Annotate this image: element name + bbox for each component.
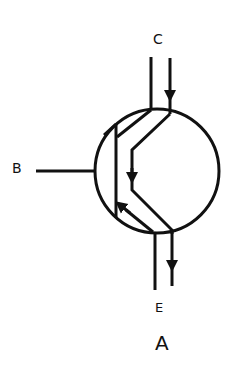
emitter-label: E [155,300,163,315]
emitter-inner-line [126,210,153,232]
caption-label: A [155,331,169,355]
base-bar-connector [104,124,116,135]
transistor-diagram: C B E A [0,0,232,372]
emitter-arrow [120,205,130,213]
base-label: B [12,160,22,176]
current-path [132,114,170,172]
collector-label: C [153,31,163,47]
current-path-lower [132,176,172,234]
